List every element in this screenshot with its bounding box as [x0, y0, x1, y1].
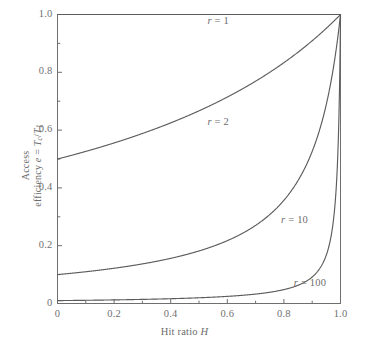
curve-label-100: r = 100 [294, 277, 326, 288]
y-axis-title-tc-subscript: c [35, 137, 44, 141]
curve-label-value-1: = 1 [212, 15, 229, 26]
y-axis-title-tc: T [32, 140, 43, 146]
y-axis-title-line2: efficiency e = Tc/T1 [32, 85, 47, 245]
curve-label-value-2: = 2 [212, 116, 229, 127]
chart-figure: 00.20.40.60.81.0 00.20.40.60.81.0 r = 1r… [0, 0, 369, 355]
chart-plot-area [0, 0, 369, 355]
curve-series-1 [58, 15, 341, 160]
curve-label-1: r = 1 [207, 15, 229, 26]
y-axis-title-equals: = [32, 146, 43, 157]
y-axis-title-line1: Access [20, 85, 32, 245]
y-axis-title-t1-subscript: 1 [35, 124, 44, 128]
y-axis-title-e-symbol: e [32, 158, 43, 163]
y-tick-label-5: 1.0 [39, 8, 53, 19]
x-tick-label-3: 0.6 [207, 308, 247, 319]
y-tick-label-4: 0.8 [39, 65, 53, 76]
data-curves [58, 15, 341, 301]
x-axis-title-symbol: H [201, 326, 209, 337]
x-axis-title-text: Hit ratio [161, 326, 201, 337]
x-tick-label-0: 0 [38, 308, 78, 319]
plot-frame [58, 15, 341, 304]
y-axis-title: Access efficiency e = Tc/T1 [20, 85, 47, 245]
curve-label-10: r = 10 [281, 214, 308, 225]
y-axis-title-t1: T [32, 128, 43, 134]
curve-label-2: r = 2 [207, 116, 229, 127]
x-axis-title: Hit ratio H [0, 326, 369, 337]
x-tick-label-1: 0.2 [94, 308, 134, 319]
x-tick-label-4: 0.8 [264, 308, 304, 319]
curve-label-value-10: = 10 [285, 214, 308, 225]
axis-ticks [58, 15, 341, 304]
x-tick-label-2: 0.4 [151, 308, 191, 319]
curve-series-3 [58, 15, 341, 301]
curve-label-value-100: = 100 [298, 277, 326, 288]
x-tick-label-5: 1.0 [321, 308, 361, 319]
curve-series-2 [58, 15, 341, 275]
y-tick-label-0: 0 [47, 297, 52, 308]
y-axis-title-efficiency-word: efficiency [32, 162, 43, 207]
